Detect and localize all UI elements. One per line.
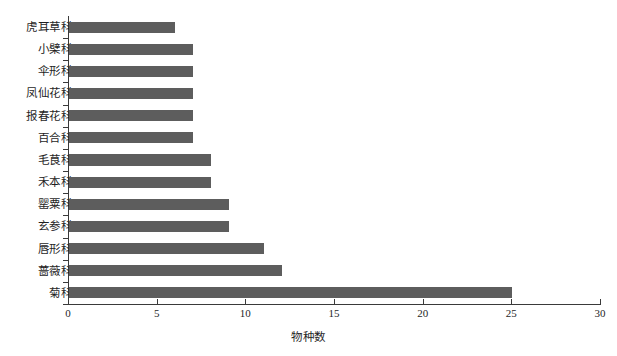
bar-row: 禾本科 [0,171,617,193]
bar-row: 唇形科 [0,238,617,260]
category-label: 禾本科 [0,171,72,193]
category-label: 毛茛科 [0,149,72,171]
plot-area: 虎耳草科小檗科伞形科凤仙花科报春花科百合科毛茛科禾本科罂粟科玄参科唇形科蔷薇科菊… [0,16,617,304]
x-axis-tick [334,299,335,304]
x-axis-line [68,304,601,305]
bar-row: 玄参科 [0,215,617,237]
x-axis-tick [600,299,601,304]
x-axis-tick-label: 5 [137,307,177,319]
bar [69,66,193,77]
x-axis-tick-label: 10 [225,307,265,319]
bar [69,243,264,254]
bar-row: 百合科 [0,127,617,149]
x-axis-tick-label: 0 [48,307,88,319]
x-axis-tick [157,299,158,304]
category-label: 菊科 [0,282,72,304]
x-axis-tick-label: 15 [314,307,354,319]
category-label: 唇形科 [0,238,72,260]
bar-row: 报春花科 [0,105,617,127]
bar [69,177,211,188]
x-axis-tick [423,299,424,304]
y-axis-tick [63,304,68,305]
category-label: 百合科 [0,127,72,149]
x-axis-tick-label: 25 [491,307,531,319]
category-label: 蔷薇科 [0,260,72,282]
bar-row: 伞形科 [0,60,617,82]
bar [69,265,282,276]
bar-row: 罂粟科 [0,193,617,215]
bar-row: 菊科 [0,282,617,304]
category-label: 虎耳草科 [0,16,72,38]
x-axis-tick-label: 20 [403,307,443,319]
bar-row: 毛茛科 [0,149,617,171]
category-label: 小檗科 [0,38,72,60]
category-label: 罂粟科 [0,193,72,215]
x-axis-tick-label: 30 [580,307,617,319]
bar-row: 虎耳草科 [0,16,617,38]
bar [69,221,229,232]
bar [69,132,193,143]
bar [69,110,193,121]
bar [69,199,229,210]
category-label: 报春花科 [0,105,72,127]
bar-row: 蔷薇科 [0,260,617,282]
bar [69,154,211,165]
bar [69,44,193,55]
category-label: 凤仙花科 [0,82,72,104]
bar-row: 凤仙花科 [0,82,617,104]
x-axis-tick [68,299,69,304]
bar-row: 小檗科 [0,38,617,60]
x-axis-tick [245,299,246,304]
bar [69,22,175,33]
x-axis-title: 物种数 [0,328,617,344]
bar [69,287,512,298]
x-axis-tick [511,299,512,304]
category-label: 玄参科 [0,215,72,237]
category-label: 伞形科 [0,60,72,82]
bar-chart: 虎耳草科小檗科伞形科凤仙花科报春花科百合科毛茛科禾本科罂粟科玄参科唇形科蔷薇科菊… [0,0,617,356]
bar [69,88,193,99]
